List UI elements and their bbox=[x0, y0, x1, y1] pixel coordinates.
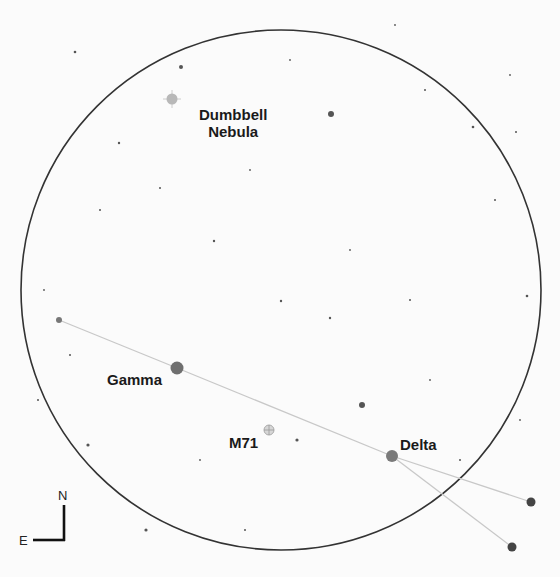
compass-arrows bbox=[33, 505, 65, 541]
delta-label: Delta bbox=[400, 436, 437, 453]
star-chart bbox=[0, 0, 560, 577]
north-label: N bbox=[58, 488, 67, 503]
east-label: E bbox=[19, 533, 28, 548]
field-stars bbox=[37, 24, 528, 532]
m71-label: M71 bbox=[229, 434, 258, 451]
dumbbell-nebula-label: Dumbbell Nebula bbox=[199, 106, 267, 140]
gamma-label: Gamma bbox=[107, 371, 162, 388]
dumbbell-nebula-marker[interactable] bbox=[163, 90, 181, 108]
dumbbell-label-line2: Nebula bbox=[199, 123, 267, 140]
gamma-star-marker[interactable] bbox=[171, 362, 184, 375]
delta-star-marker[interactable] bbox=[386, 450, 398, 462]
star-marker bbox=[56, 317, 62, 323]
m71-marker[interactable] bbox=[264, 425, 274, 435]
star-marker bbox=[508, 543, 517, 552]
field-of-view-circle bbox=[21, 30, 541, 550]
dumbbell-label-line1: Dumbbell bbox=[199, 106, 267, 123]
constellation-lines bbox=[59, 320, 531, 547]
star-marker bbox=[527, 498, 536, 507]
